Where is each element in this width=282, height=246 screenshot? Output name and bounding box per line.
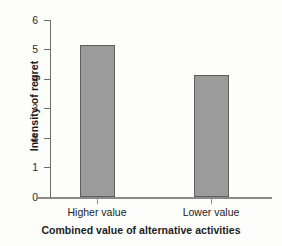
y-tick-4 — [44, 79, 50, 80]
x-category-label-1: Lower value — [161, 206, 261, 218]
bar-lower-value — [194, 75, 229, 197]
y-tick-1 — [44, 167, 50, 168]
y-axis-title: Intensity of regret — [28, 26, 40, 186]
y-tick-6 — [44, 20, 50, 21]
y-tick-label-6: 6 — [8, 15, 38, 26]
x-axis-title: Combined value of alternative activities — [0, 224, 282, 236]
chart-figure: 6 5 4 3 2 1 0 Higher value Lower value I… — [0, 0, 282, 246]
x-tick-higher-value — [97, 199, 98, 204]
y-tick-3 — [44, 108, 50, 109]
y-tick-5 — [44, 49, 50, 50]
y-axis-line — [50, 20, 51, 198]
y-tick-label-0: 0 — [8, 192, 38, 203]
x-tick-lower-value — [211, 199, 212, 204]
x-category-label-0: Higher value — [47, 206, 147, 218]
bar-higher-value — [80, 45, 115, 197]
x-axis-line — [36, 197, 272, 199]
plot-area: 6 5 4 3 2 1 0 Higher value Lower value I… — [0, 0, 282, 246]
y-tick-2 — [44, 138, 50, 139]
